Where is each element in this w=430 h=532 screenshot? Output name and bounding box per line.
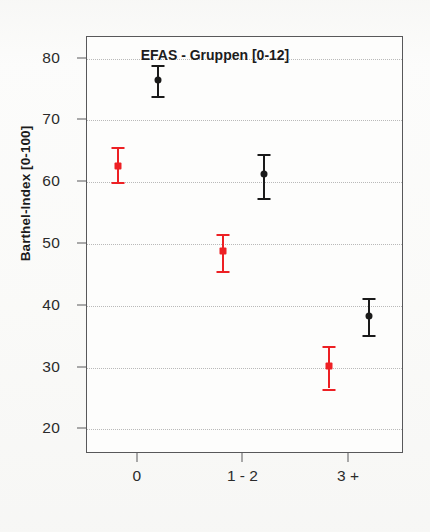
data-marker-black-series-1-2 — [260, 171, 267, 178]
errorbar-cap-low — [257, 198, 270, 200]
y-tick-mark-60 — [77, 181, 86, 182]
y-axis-title: Barthel-Index [0-100] — [18, 64, 33, 324]
x-tick-mark-0 — [136, 453, 137, 462]
y-tick-mark-20 — [77, 428, 86, 429]
gridline-20 — [87, 429, 402, 430]
y-tick-mark-30 — [77, 366, 86, 367]
gridline-40 — [87, 306, 402, 307]
errorbar-red-series-0 — [108, 37, 128, 454]
data-marker-red-series-3+ — [326, 362, 333, 369]
y-tick-label-60: 60 — [42, 172, 60, 190]
y-tick-label-30: 30 — [42, 358, 60, 376]
y-tick-label-20: 20 — [42, 419, 60, 437]
errorbar-cap-high — [217, 234, 230, 236]
data-marker-red-series-1-2 — [220, 248, 227, 255]
errorbar-black-series-0 — [148, 37, 168, 454]
y-tick-label-70: 70 — [42, 110, 60, 128]
errorbar-red-series-1-2 — [213, 37, 233, 454]
gridline-50 — [87, 244, 402, 245]
x-tick-label-2: 3 + — [337, 467, 359, 485]
errorbar-cap-low — [111, 182, 124, 184]
x-tick-mark-1 — [242, 453, 243, 462]
y-tick-mark-70 — [77, 119, 86, 120]
errorbar-red-series-3+ — [319, 37, 339, 454]
gridline-30 — [87, 368, 402, 369]
x-tick-label-1: 1 - 2 — [227, 467, 258, 485]
figure-scatter-errorbar: 20304050607080 Barthel-Index [0-100] 01 … — [0, 0, 430, 532]
y-tick-mark-40 — [77, 304, 86, 305]
plot-area — [86, 36, 403, 453]
errorbar-cap-low — [323, 389, 336, 391]
x-axis-title: EFAS - Gruppen [0-12] — [0, 47, 430, 63]
errorbar-black-series-3+ — [359, 37, 379, 454]
errorbar-cap-high — [323, 346, 336, 348]
y-tick-label-50: 50 — [42, 234, 60, 252]
y-tick-label-40: 40 — [42, 296, 60, 314]
x-axis: 01 - 23 + — [0, 453, 430, 532]
errorbar-cap-high — [111, 147, 124, 149]
errorbar-cap-high — [363, 298, 376, 300]
y-tick-mark-50 — [77, 243, 86, 244]
errorbar-cap-low — [151, 96, 164, 98]
errorbar-cap-low — [217, 271, 230, 273]
data-marker-red-series-0 — [114, 163, 121, 170]
data-marker-black-series-0 — [154, 76, 161, 83]
errorbar-cap-high — [257, 154, 270, 156]
errorbar-cap-low — [363, 335, 376, 337]
errorbar-black-series-1-2 — [254, 37, 274, 454]
errorbar-cap-high — [151, 65, 164, 67]
data-marker-black-series-3+ — [366, 313, 373, 320]
gridline-60 — [87, 182, 402, 183]
x-tick-mark-2 — [348, 453, 349, 462]
x-tick-label-0: 0 — [132, 467, 141, 485]
gridline-70 — [87, 120, 402, 121]
